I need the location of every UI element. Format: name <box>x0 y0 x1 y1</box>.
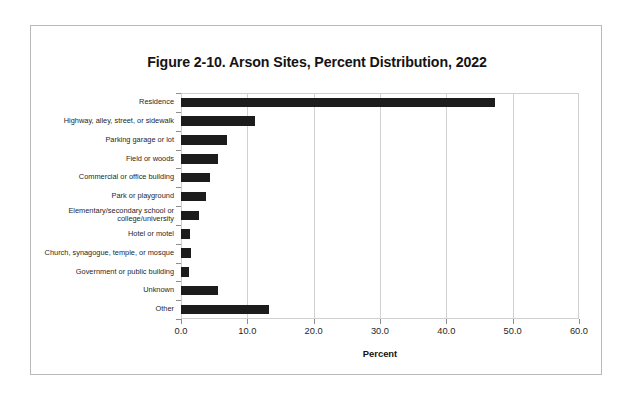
x-axis-tick <box>314 319 315 324</box>
y-axis-category-label: Commercial or office building <box>31 168 174 187</box>
x-axis-tick-label: 20.0 <box>294 326 334 336</box>
bar <box>181 229 190 239</box>
bar <box>181 286 218 296</box>
y-axis-tick <box>176 225 181 226</box>
bar <box>181 173 210 183</box>
y-axis-category-label-line: Park or playground <box>112 192 174 201</box>
y-axis-category-label: Unknown <box>31 281 174 300</box>
y-axis-category-label-line: college/university <box>117 215 174 224</box>
bar <box>181 211 199 221</box>
y-axis-category-label-line: Other <box>156 305 174 314</box>
x-axis-tick-label: 40.0 <box>426 326 466 336</box>
bar-row <box>181 225 579 244</box>
bar-row <box>181 244 579 263</box>
y-axis-category-label-line: Commercial or office building <box>79 173 174 182</box>
bar-row <box>181 112 579 131</box>
bar-row <box>181 281 579 300</box>
y-axis-category-label: Church, synagogue, temple, or mosque <box>31 244 174 263</box>
y-axis-category-label-line: Residence <box>139 98 174 107</box>
y-axis-category-label-line: Government or public building <box>76 268 174 277</box>
x-axis-tick-label: 50.0 <box>493 326 533 336</box>
bar-row <box>181 150 579 169</box>
bar-row <box>181 168 579 187</box>
x-axis-tick-label: 10.0 <box>227 326 267 336</box>
bar-row <box>181 187 579 206</box>
y-axis-category-label-line: Church, synagogue, temple, or mosque <box>45 249 174 258</box>
y-axis-category-label: Elementary/secondary school orcollege/un… <box>31 206 174 225</box>
y-axis-category-label: Parking garage or lot <box>31 131 174 150</box>
y-axis-ticks <box>176 93 181 319</box>
y-axis-category-label: Hotel or motel <box>31 225 174 244</box>
y-axis-tick <box>176 300 181 301</box>
y-axis-category-label: Field or woods <box>31 150 174 169</box>
bar-row <box>181 93 579 112</box>
figure-page-frame: Figure 2-10. Arson Sites, Percent Distri… <box>30 25 602 375</box>
bar-row <box>181 206 579 225</box>
x-axis-tick-label: 0.0 <box>161 326 201 336</box>
x-axis-tick-labels: 0.010.020.030.040.050.060.0 <box>181 326 579 340</box>
x-axis-tick-label: 30.0 <box>360 326 400 336</box>
y-axis-category-label: Highway, alley, street, or sidewalk <box>31 112 174 131</box>
x-axis-tick <box>446 319 447 324</box>
x-axis-tick <box>513 319 514 324</box>
y-axis-tick <box>176 131 181 132</box>
y-axis-tick <box>176 263 181 264</box>
y-axis-tick <box>176 93 181 94</box>
chart-canvas: ResidenceHighway, alley, street, or side… <box>31 26 603 376</box>
bar <box>181 154 218 164</box>
y-axis-tick <box>176 112 181 113</box>
bar-series <box>181 93 579 319</box>
y-axis-category-label-line: Highway, alley, street, or sidewalk <box>64 117 174 126</box>
y-axis-tick <box>176 168 181 169</box>
bar <box>181 248 191 258</box>
bar-row <box>181 300 579 319</box>
y-axis-category-label-line: Unknown <box>143 286 174 295</box>
bar-row <box>181 131 579 150</box>
x-axis-tick <box>380 319 381 324</box>
x-axis-tick-label: 60.0 <box>559 326 599 336</box>
y-axis-category-label: Residence <box>31 93 174 112</box>
y-axis-tick <box>176 206 181 207</box>
bar <box>181 305 269 315</box>
bar <box>181 98 495 108</box>
y-axis-tick <box>176 150 181 151</box>
x-axis-title: Percent <box>181 348 579 359</box>
y-axis-category-label-line: Field or woods <box>126 155 174 164</box>
bar <box>181 192 206 202</box>
y-axis-category-label-line: Parking garage or lot <box>105 136 174 145</box>
x-axis-tick <box>579 319 580 324</box>
y-axis-category-label: Other <box>31 300 174 319</box>
y-axis-category-label: Government or public building <box>31 263 174 282</box>
y-axis-tick <box>176 187 181 188</box>
x-axis-tick <box>181 319 182 324</box>
x-axis-tick <box>247 319 248 324</box>
bar <box>181 267 189 277</box>
bar <box>181 135 227 145</box>
bar-row <box>181 263 579 282</box>
y-axis-category-labels: ResidenceHighway, alley, street, or side… <box>31 93 174 319</box>
y-axis-tick <box>176 244 181 245</box>
y-axis-tick <box>176 281 181 282</box>
y-axis-category-label: Park or playground <box>31 187 174 206</box>
bar <box>181 116 255 126</box>
y-axis-category-label-line: Hotel or motel <box>128 230 174 239</box>
x-axis-ticks <box>181 319 579 324</box>
